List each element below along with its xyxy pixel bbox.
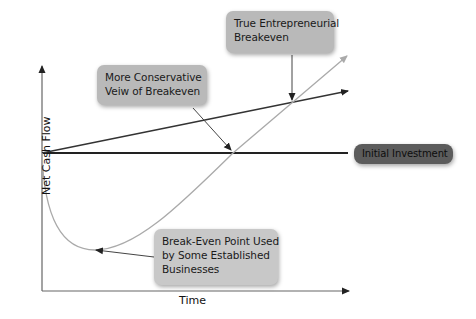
callout-line: Businesses xyxy=(162,262,270,276)
callout-line: True Entrepreneurial xyxy=(234,16,326,30)
callout-more-conservative-breakeven: More Conservative Veiw of Breakeven xyxy=(97,65,207,105)
y-axis-label: Net Cash Flow xyxy=(40,116,53,195)
callout-line: Veiw of Breakeven xyxy=(105,84,199,98)
callout-line: by Some Established xyxy=(162,248,270,262)
x-axis-label: Time xyxy=(179,294,206,307)
callout-true-entrepreneurial-breakeven: True Entrepreneurial Breakeven xyxy=(226,11,334,53)
pointer-more-conservative xyxy=(193,108,231,150)
callout-initial-investment: Initial Investment xyxy=(354,144,453,164)
callout-label: Initial Investment xyxy=(362,147,445,160)
callout-line: Breakeven xyxy=(234,30,326,44)
callout-established-businesses: Break-Even Point Used by Some Establishe… xyxy=(154,229,278,285)
callout-line: Break-Even Point Used xyxy=(162,234,270,248)
callout-line: More Conservative xyxy=(105,70,199,84)
pointer-established xyxy=(96,250,154,257)
